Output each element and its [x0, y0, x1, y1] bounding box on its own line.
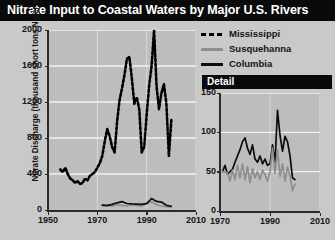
detail-y-axis-tick-label: 50	[196, 166, 216, 176]
y-axis-tick-mark	[45, 102, 49, 103]
dashed-line-icon	[201, 33, 223, 36]
legend-label-columbia: Columbia	[229, 58, 272, 69]
main-plot-svg	[48, 30, 196, 210]
detail-x-axis-tick-mark	[220, 213, 221, 217]
legend-item-mississippi: Mississippi	[201, 28, 331, 41]
y-axis-tick-mark	[45, 174, 49, 175]
legend-label-susquehanna: Susquehanna	[229, 43, 291, 54]
detail-x-axis-tick-label: 2010	[305, 216, 335, 226]
legend-item-columbia: Columbia	[201, 58, 331, 71]
chart-figure: Nitrate Input to Coastal Waters by Major…	[0, 0, 335, 240]
y-axis-tick-mark	[45, 138, 49, 139]
detail-y-axis-tick-label: 0	[196, 205, 216, 215]
x-axis-tick-label: 1990	[132, 215, 162, 225]
solid-line-icon	[201, 48, 223, 51]
main-y-axis-line	[47, 30, 49, 211]
main-plot-area	[48, 30, 196, 210]
detail-y-axis-tick-label: 100	[196, 126, 216, 136]
x-axis-tick-mark	[48, 212, 49, 216]
detail-x-axis-tick-label: 1970	[205, 216, 235, 226]
detail-panel-header: Detail	[202, 75, 332, 89]
detail-panel-title: Detail	[207, 76, 234, 87]
detail-y-axis-line	[219, 93, 221, 212]
detail-x-axis-tick-mark	[320, 213, 321, 217]
legend-item-susquehanna: Susquehanna	[201, 43, 331, 56]
y-axis-tick-label: 0	[8, 204, 42, 214]
x-axis-tick-label: 1970	[82, 215, 112, 225]
detail-plot-svg	[220, 93, 320, 211]
detail-x-axis-tick-mark	[270, 213, 271, 217]
main-x-axis-line	[47, 210, 196, 212]
y-axis-label: Nitrate Discharge (thousand short tons N…	[31, 32, 40, 182]
y-axis-tick-mark	[45, 30, 49, 31]
detail-y-axis-tick-label: 150	[196, 87, 216, 97]
detail-y-axis-tick-mark	[217, 171, 221, 172]
legend-label-mississippi: Mississippi	[229, 28, 280, 39]
x-axis-tick-label: 1950	[33, 215, 63, 225]
detail-y-axis-tick-mark	[217, 132, 221, 133]
chart-legend: Mississippi Susquehanna Columbia	[201, 28, 331, 72]
chart-title-bar: Nitrate Input to Coastal Waters by Major…	[0, 0, 335, 21]
x-axis-tick-mark	[146, 212, 147, 216]
detail-plot-area	[220, 93, 320, 211]
solid-line-icon	[201, 63, 223, 66]
detail-x-axis-tick-label: 1990	[255, 216, 285, 226]
detail-y-axis-tick-mark	[217, 93, 221, 94]
page-title: Nitrate Input to Coastal Waters by Major…	[7, 3, 308, 17]
y-axis-tick-mark	[45, 66, 49, 67]
x-axis-tick-mark	[97, 212, 98, 216]
